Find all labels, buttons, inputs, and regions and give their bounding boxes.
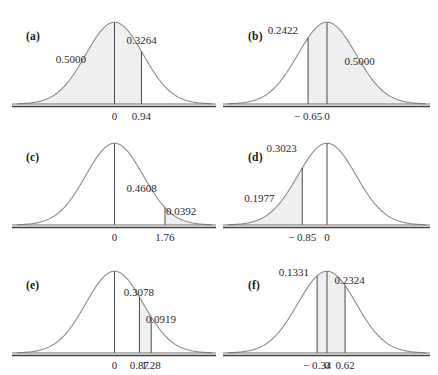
panel-e: (e)0.30780.091900.871.28 <box>0 245 218 375</box>
tick-label: 0.94 <box>132 110 151 122</box>
curve-plot-d <box>218 125 438 245</box>
tick-label: − 0.85 <box>288 231 316 243</box>
figure-panel-grid: (a)0.50000.326400.94(b)0.24220.5000− 0.6… <box>0 0 438 375</box>
curve-plot-f <box>218 245 438 375</box>
tick-label: 1.28 <box>142 359 161 371</box>
probability-label: 0.0919 <box>146 313 176 325</box>
probability-label: 0.3264 <box>127 34 157 46</box>
probability-label: 0.4608 <box>127 182 157 194</box>
panel-letter-b: (b) <box>248 30 263 42</box>
tick-label: 0 <box>112 231 118 243</box>
panel-letter-f: (f) <box>248 279 260 291</box>
tick-label: 0 <box>324 359 330 371</box>
panel-f: (f)0.13310.2324− 0.3400.62 <box>218 245 438 375</box>
probability-label: 0.3078 <box>124 286 154 298</box>
panel-d: (d)0.30230.1977− 0.850 <box>218 125 438 245</box>
shaded-region <box>139 297 151 353</box>
curve-plot-b <box>218 0 438 125</box>
probability-label: 0.2324 <box>335 274 365 286</box>
tick-label: 0.62 <box>335 359 354 371</box>
tick-label: 0 <box>324 110 330 122</box>
probability-label: 0.0392 <box>166 205 196 217</box>
panel-letter-d: (d) <box>248 151 263 163</box>
panel-letter-e: (e) <box>26 279 39 291</box>
panel-a: (a)0.50000.326400.94 <box>0 0 218 125</box>
curve-plot-a <box>0 0 218 125</box>
tick-label: 0 <box>112 359 118 371</box>
tick-label: 0 <box>112 110 118 122</box>
probability-label: 0.5000 <box>345 55 375 67</box>
tick-label: 0 <box>324 231 330 243</box>
probability-label: 0.3023 <box>266 142 296 154</box>
probability-label: 0.1977 <box>244 192 274 204</box>
curve-plot-c <box>0 125 218 245</box>
panel-letter-c: (c) <box>26 151 39 163</box>
probability-label: 0.2422 <box>268 24 298 36</box>
curve-plot-e <box>0 245 218 375</box>
tick-label: 1.76 <box>155 231 174 243</box>
tick-label: − 0.65 <box>294 110 322 122</box>
probability-label: 0.1331 <box>279 266 309 278</box>
panel-letter-a: (a) <box>26 30 40 42</box>
panel-b: (b)0.24220.5000− 0.650 <box>218 0 438 125</box>
panel-c: (c)0.46080.039201.76 <box>0 125 218 245</box>
probability-label: 0.5000 <box>56 53 86 65</box>
